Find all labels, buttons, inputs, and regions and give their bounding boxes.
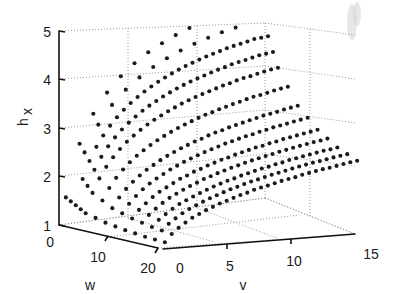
scatter-point: [250, 158, 254, 162]
scatter-point: [171, 181, 175, 185]
scatter-point: [69, 199, 73, 203]
v-axis-title: v: [240, 277, 247, 293]
scatter-point: [151, 163, 155, 167]
scatter-point: [245, 191, 249, 195]
scatter-point: [78, 142, 82, 146]
scatter-point: [268, 112, 272, 116]
grid-back-right-wall: [265, 23, 355, 234]
scatter-point: [190, 61, 194, 65]
scatter-point: [341, 162, 345, 166]
scatter-point: [281, 137, 285, 141]
scatter-point: [290, 167, 294, 171]
v-tick-labels: 0 5 10 15: [176, 246, 379, 276]
w-axis-title: w: [84, 277, 96, 293]
scatter-point: [154, 99, 158, 103]
scatter-point: [271, 125, 275, 129]
scatter-point: [149, 84, 153, 88]
hx-tick-2: 2: [43, 169, 51, 185]
scatter-point: [134, 114, 138, 118]
scatter-point: [124, 187, 128, 191]
scatter-point: [121, 167, 125, 171]
scatter-point: [228, 187, 232, 191]
scatter-point: [64, 195, 68, 199]
scatter-point: [274, 139, 278, 143]
scatter-point: [241, 121, 245, 125]
scatter-point: [122, 108, 126, 112]
scatter-point: [280, 160, 284, 164]
scatter-point: [177, 226, 181, 230]
scatter-point: [206, 133, 210, 137]
scatter-point: [314, 169, 318, 173]
scatter-point: [308, 152, 312, 156]
scatter-point: [225, 199, 229, 203]
scatter-point: [132, 61, 136, 65]
scatter-point: [83, 150, 87, 154]
scatter-point: [264, 128, 268, 132]
hx-tick-5: 5: [43, 24, 51, 40]
scatter-point: [145, 168, 149, 172]
scatter-point: [255, 72, 259, 76]
scatter-point: [188, 184, 192, 188]
scatter-point: [204, 208, 208, 212]
scatter-point: [127, 202, 131, 206]
scatter-point: [161, 172, 165, 176]
scatter-point: [263, 175, 267, 179]
scatter-point: [239, 42, 243, 46]
scatter-point: [137, 208, 141, 212]
scatter-point: [146, 50, 150, 54]
scatter-point: [298, 144, 302, 148]
scatter-point: [264, 154, 268, 158]
scatter-point: [238, 193, 242, 197]
scatter-point: [201, 200, 205, 204]
scatter-point: [152, 118, 156, 122]
scatter-point: [192, 42, 196, 46]
scatter-point: [286, 177, 290, 181]
scatter-point: [233, 153, 237, 157]
v-tick-5: 5: [226, 258, 234, 274]
scatter-point: [185, 173, 189, 177]
scatter-point: [284, 148, 288, 152]
scatter-point: [299, 118, 303, 122]
scatter-point: [197, 212, 201, 216]
scatter-point: [207, 89, 211, 93]
scatter-point: [269, 68, 273, 72]
v-tick-15: 15: [363, 246, 379, 262]
scatter-point: [206, 163, 210, 167]
scatter-point: [132, 134, 136, 138]
scatter-point: [140, 109, 144, 113]
scatter-point: [84, 211, 88, 215]
scatter-point: [177, 68, 181, 72]
scatter-point: [99, 155, 103, 159]
scatter-point: [301, 154, 305, 158]
scatter-point: [245, 97, 249, 101]
scatter-point: [328, 147, 332, 151]
scatter-point: [277, 171, 281, 175]
scatter-point: [189, 79, 193, 83]
scatter-point: [197, 58, 201, 62]
scatter-point: [160, 229, 164, 233]
scatter-point: [251, 95, 255, 99]
scatter-point: [202, 73, 206, 77]
scatter-point: [228, 81, 232, 85]
scatter-point: [264, 52, 268, 56]
scatter-point: [231, 102, 235, 106]
scatter-point: [270, 173, 274, 177]
scatter-point: [138, 173, 142, 177]
scatter-point: [165, 154, 169, 158]
scatter-point: [282, 107, 286, 111]
scatter-point: [206, 36, 210, 40]
scatter-point: [271, 50, 275, 54]
scatter-point: [348, 160, 352, 164]
scatter-point: [137, 75, 141, 79]
scatter-point: [180, 211, 184, 215]
scatter-point: [355, 159, 359, 163]
scatter-point: [190, 119, 194, 123]
scatter-point: [259, 185, 263, 189]
scatter-point: [267, 141, 271, 145]
scatter-point: [208, 196, 212, 200]
scatter-point: [182, 160, 186, 164]
scatter-point: [200, 92, 204, 96]
scatter-point: [325, 157, 329, 161]
scatter-point: [189, 156, 193, 160]
scatter-point: [210, 110, 214, 114]
